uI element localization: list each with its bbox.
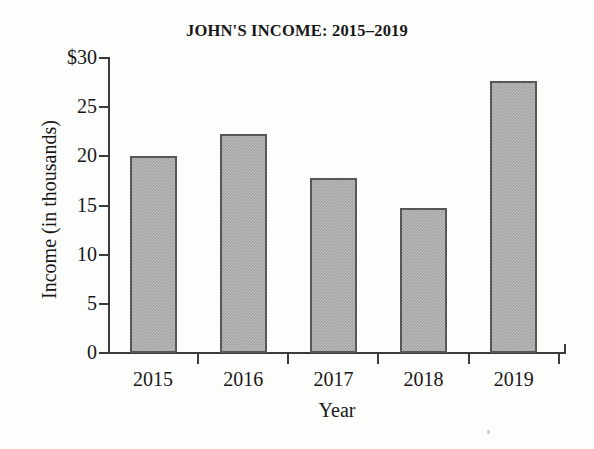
- bar-2018: [400, 208, 447, 353]
- x-axis-tick-label-2017: 2017: [286, 368, 380, 391]
- y-axis-tick: [99, 352, 108, 354]
- x-axis-tick-label-2015: 2015: [106, 368, 200, 391]
- x-axis-tick: [197, 354, 199, 364]
- y-axis-tick-label: 10: [5, 244, 97, 264]
- y-axis-tick: [99, 303, 108, 305]
- y-axis-tick-label: 0: [5, 342, 97, 362]
- x-axis-tick-label-2018: 2018: [377, 368, 471, 391]
- bar-2017: [310, 178, 357, 353]
- bar-chart-figure: JOHN'S INCOME: 2015–2019 Income (in thou…: [0, 0, 594, 449]
- x-axis-tick: [468, 354, 470, 364]
- x-axis-title: Year: [108, 399, 566, 422]
- bar-2015: [130, 156, 177, 353]
- y-axis-tick-label: 25: [5, 96, 97, 116]
- x-axis-tick: [558, 354, 560, 364]
- y-axis-tick: [99, 57, 108, 59]
- y-axis-tick: [99, 106, 108, 108]
- y-axis-tick: [99, 205, 108, 207]
- y-axis-tick-label: $30: [5, 47, 97, 67]
- y-axis-tick-label: 5: [5, 293, 97, 313]
- x-axis-tick-label-2016: 2016: [196, 368, 290, 391]
- x-axis-tick: [287, 354, 289, 364]
- scan-speck: [487, 430, 490, 434]
- bar-2019: [490, 81, 537, 353]
- x-axis-tick-label-2019: 2019: [467, 368, 561, 391]
- y-axis-tick-labels: 0510152025$30: [0, 0, 97, 449]
- plot-area: [108, 58, 566, 353]
- bar-2016: [220, 134, 267, 353]
- y-axis-tick-label: 20: [5, 145, 97, 165]
- x-axis-tick: [377, 354, 379, 364]
- y-axis-tick-label: 15: [5, 195, 97, 215]
- y-axis-tick: [99, 254, 108, 256]
- y-axis-tick: [99, 155, 108, 157]
